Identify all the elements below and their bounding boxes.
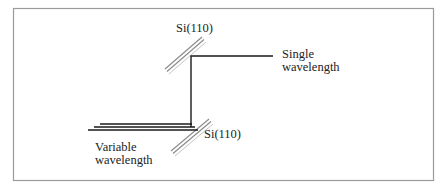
diagram-frame xyxy=(14,9,434,181)
bottom-crystal-label: Si(110) xyxy=(204,128,241,141)
input-beams xyxy=(88,124,198,130)
monochromator-diagram xyxy=(0,0,440,188)
output-label-line2: wavelength xyxy=(282,61,340,74)
top-crystal-label: Si(110) xyxy=(176,22,213,35)
output-beam xyxy=(191,56,273,127)
input-label-line2: wavelength xyxy=(95,154,153,167)
